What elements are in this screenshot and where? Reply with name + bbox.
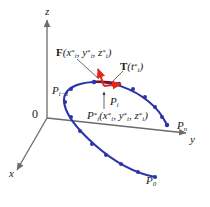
point-label-P-i-minus-1: Pi−1 [52, 85, 69, 98]
tangent-vector-args: (t*i) [127, 60, 143, 72]
curve-dot [119, 162, 123, 166]
sample-point-label: P*i(x*i, y*i, z*i) [87, 110, 148, 123]
force-vector-symbol: F [56, 46, 63, 58]
origin-label: 0 [32, 108, 38, 120]
curve-dot [69, 87, 73, 91]
subscript-i: i [117, 101, 119, 108]
curve-dot [90, 142, 94, 146]
force-vector-F [98, 69, 104, 86]
force-vector-label: F(x*i, y*i, z*i) [56, 47, 111, 60]
leader-line-F [77, 59, 99, 79]
subscript-0: 0 [153, 180, 156, 187]
curve-dot-Pn [165, 123, 169, 127]
curve-dot [78, 129, 82, 133]
axis-label-z: z [45, 6, 49, 17]
point-label-P-i: Pi [110, 96, 119, 109]
sample-point-coords: (x*i, y*i, z*i) [99, 109, 148, 121]
point-label-P-0: P0 [146, 175, 156, 188]
curve-dot [131, 87, 135, 91]
curve-dot [63, 100, 67, 104]
curve-dot [104, 153, 108, 157]
tangent-vector-label: T(t*i) [120, 61, 143, 74]
force-vector-args: (x*i, y*i, z*i) [63, 46, 112, 58]
figure-container: z y x 0 F(x*i, y*i, z*i) T(t*i) Pi−1 Pi … [0, 0, 210, 207]
curve-dot-Pi-1 [92, 80, 96, 84]
curve-dot [69, 115, 73, 119]
diagram-canvas [0, 0, 210, 207]
curve-dot [160, 115, 164, 119]
subscript-n: n [184, 125, 187, 132]
subscript-i-minus-1: i−1 [59, 90, 69, 97]
point-label-P-n: Pn [177, 120, 187, 133]
axes-group [17, 20, 186, 170]
curve-dot [143, 95, 147, 99]
x-axis-line [17, 118, 47, 170]
axis-label-x: x [9, 168, 14, 179]
curve-dot [153, 105, 157, 109]
curve-dot [136, 170, 140, 174]
axis-label-y: y [190, 134, 195, 145]
